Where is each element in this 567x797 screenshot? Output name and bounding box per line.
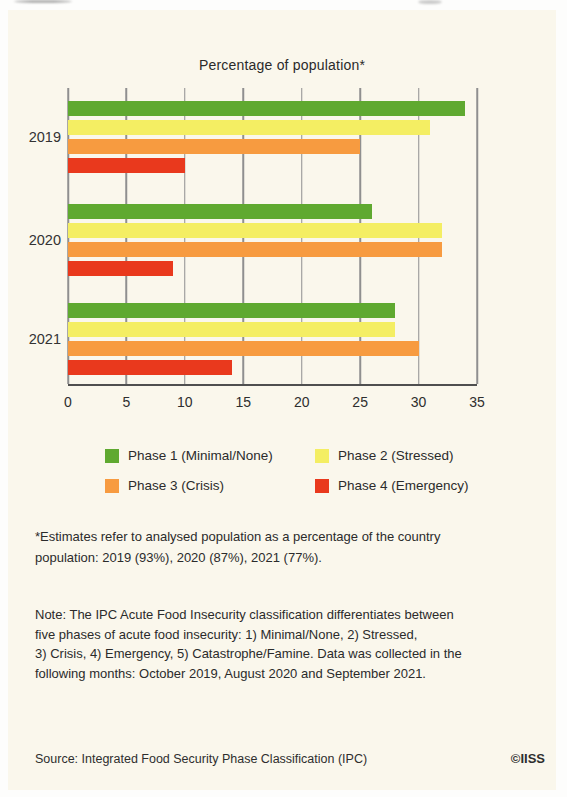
source-row: Source: Integrated Food Security Phase C… <box>35 751 545 766</box>
footnote-text: *Estimates refer to analysed population … <box>35 526 540 568</box>
legend-label: Phase 1 (Minimal/None) <box>128 448 273 463</box>
x-tick-label: 10 <box>177 394 193 410</box>
chart-card: Percentage of population* 201920202021 0… <box>8 10 556 790</box>
year-label-2020: 2020 <box>29 232 61 248</box>
x-tick-label: 15 <box>235 394 251 410</box>
source-text: Source: Integrated Food Security Phase C… <box>35 752 367 766</box>
x-axis-ticks: 05101520253035 <box>68 394 477 412</box>
credit-text: ©IISS <box>511 751 545 766</box>
phase4-swatch-icon <box>315 479 329 493</box>
x-tick-label: 0 <box>64 394 72 410</box>
phase2-swatch-icon <box>315 449 329 463</box>
legend-item-phase4: Phase 4 (Emergency) <box>315 478 469 493</box>
scan-artifact <box>14 0 72 3</box>
legend-label: Phase 4 (Emergency) <box>338 478 469 493</box>
bar-2020-phase1 <box>68 204 372 219</box>
bar-2020-phase3 <box>68 242 442 257</box>
legend-item-phase2: Phase 2 (Stressed) <box>315 448 469 463</box>
bar-2019-phase1 <box>68 101 465 116</box>
scan-artifact <box>418 0 442 4</box>
year-label-2019: 2019 <box>29 129 61 145</box>
plot-area: 201920202021 <box>68 88 477 386</box>
chart-title: Percentage of population* <box>8 57 556 73</box>
x-tick-label: 5 <box>123 394 131 410</box>
x-tick-label: 25 <box>352 394 368 410</box>
phase1-swatch-icon <box>105 449 119 463</box>
year-label-2021: 2021 <box>29 331 61 347</box>
legend: Phase 1 (Minimal/None) Phase 2 (Stressed… <box>105 448 469 493</box>
x-tick-label: 35 <box>469 394 485 410</box>
bar-2021-phase4 <box>68 360 232 375</box>
bar-2021-phase3 <box>68 341 419 356</box>
x-tick-label: 30 <box>411 394 427 410</box>
bar-group-2020: 2020 <box>68 204 477 276</box>
bar-2021-phase2 <box>68 322 395 337</box>
legend-label: Phase 2 (Stressed) <box>338 448 454 463</box>
legend-item-phase3: Phase 3 (Crisis) <box>105 478 315 493</box>
bar-2020-phase2 <box>68 223 442 238</box>
phase3-swatch-icon <box>105 479 119 493</box>
bar-2020-phase4 <box>68 261 173 276</box>
bar-group-2021: 2021 <box>68 303 477 375</box>
bar-2019-phase3 <box>68 139 360 154</box>
bar-group-2019: 2019 <box>68 101 477 173</box>
x-tick-label: 20 <box>294 394 310 410</box>
legend-item-phase1: Phase 1 (Minimal/None) <box>105 448 315 463</box>
bar-2019-phase4 <box>68 158 185 173</box>
bar-2021-phase1 <box>68 303 395 318</box>
legend-label: Phase 3 (Crisis) <box>128 478 224 493</box>
note-text: Note: The IPC Acute Food Insecurity clas… <box>35 605 550 683</box>
bar-2019-phase2 <box>68 120 430 135</box>
